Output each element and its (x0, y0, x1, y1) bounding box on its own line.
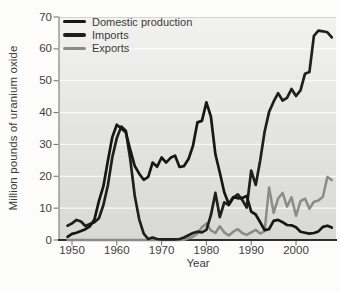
x-tick-label: 1980 (187, 244, 225, 257)
y-tick-label: 50 (25, 74, 52, 87)
x-axis-title: Year (172, 257, 224, 269)
y-tick-label: 70 (25, 11, 52, 24)
uranium-chart-figure: Million pounds of uranium oxide Year Dom… (0, 0, 340, 291)
legend-item-imports: Imports (63, 28, 192, 41)
exports-line-swatch (63, 47, 86, 51)
chart-legend: Domestic production Imports Exports (63, 15, 192, 55)
y-tick-label: 0 (25, 234, 52, 247)
legend-label: Imports (92, 29, 129, 41)
y-tick-label: 60 (25, 42, 52, 55)
y-tick-label: 20 (25, 170, 52, 183)
legend-item-domestic-production: Domestic production (63, 15, 192, 28)
x-tick-label: 1990 (232, 244, 270, 257)
y-tick-label: 10 (25, 202, 52, 215)
x-tick-label: 1950 (53, 244, 91, 257)
x-tick-label: 2000 (277, 244, 315, 257)
y-tick-label: 30 (25, 138, 52, 151)
y-tick-label: 40 (25, 106, 52, 119)
domestic-production-line-swatch (63, 20, 86, 24)
series-line-domestic-production (68, 102, 332, 236)
legend-label: Exports (92, 42, 129, 54)
x-tick-label: 1970 (143, 244, 181, 257)
legend-label: Domestic production (92, 16, 192, 28)
x-tick-label: 1960 (98, 244, 136, 257)
legend-item-exports: Exports (63, 42, 192, 55)
y-axis-title: Million pounds of uranium oxide (7, 46, 19, 211)
imports-line-swatch (63, 33, 86, 37)
